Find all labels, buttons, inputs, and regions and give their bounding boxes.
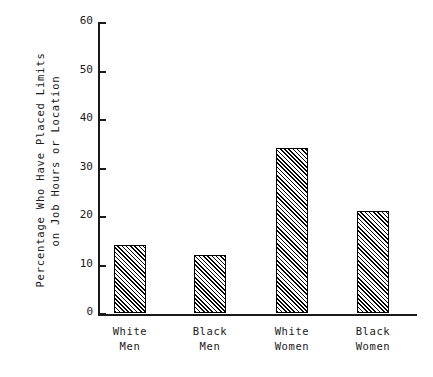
x-tick-label-line-1: White <box>96 324 164 339</box>
y-tick-label-50: 50 <box>80 64 93 76</box>
x-axis-line <box>98 314 417 316</box>
x-tick-label-line-2: Men <box>176 339 244 354</box>
y-axis-title-line-2: on Job Hours or Location <box>48 52 63 287</box>
x-tick-label-white-women: White Women <box>258 324 326 354</box>
bar-white-men <box>114 245 146 313</box>
y-tick-label-10: 10 <box>80 258 93 270</box>
y-tick-label-60: 60 <box>80 15 93 27</box>
y-tick-30: 30 <box>100 168 106 170</box>
x-tick-label-line-1: Black <box>339 324 407 339</box>
x-tick-label-line-2: Men <box>96 339 164 354</box>
bar-black-men <box>194 255 226 313</box>
y-tick-0: 0 <box>100 313 106 315</box>
x-tick-label-line-1: Black <box>176 324 244 339</box>
x-tick-label-line-2: Women <box>258 339 326 354</box>
y-tick-label-0: 0 <box>86 306 93 318</box>
bar-white-women <box>276 148 308 314</box>
y-tick-label-40: 40 <box>80 112 93 124</box>
y-tick-20: 20 <box>100 216 106 218</box>
bar-black-women <box>357 211 389 313</box>
x-tick-label-line-1: White <box>258 324 326 339</box>
y-tick-40: 40 <box>100 119 106 121</box>
bar-chart-figure: Percentage Who Have Placed Limits on Job… <box>0 0 433 377</box>
y-tick-10: 10 <box>100 265 106 267</box>
x-tick-label-black-women: Black Women <box>339 324 407 354</box>
y-tick-label-20: 20 <box>80 209 93 221</box>
x-tick-label-line-2: Women <box>339 339 407 354</box>
x-tick-label-white-men: White Men <box>96 324 164 354</box>
y-tick-60: 60 <box>100 22 106 24</box>
y-tick-50: 50 <box>100 71 106 73</box>
y-tick-label-30: 30 <box>80 161 93 173</box>
x-tick-label-black-men: Black Men <box>176 324 244 354</box>
plot-area: 0 10 20 30 40 50 60 White Men Blac <box>98 22 417 315</box>
y-axis-title-line-1: Percentage Who Have Placed Limits <box>33 52 48 287</box>
